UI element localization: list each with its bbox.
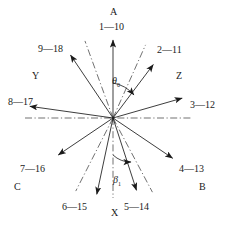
vector-v8 bbox=[30, 106, 113, 118]
angle-label-beta: β1 bbox=[113, 175, 121, 187]
radial-vector-diagram: A X Y Z C B θ0 β1 1—102—113—124—135—146—… bbox=[0, 0, 230, 229]
vector-label-v3: 3—12 bbox=[190, 100, 215, 110]
beta-subscript: 1 bbox=[118, 181, 121, 187]
vector-v3 bbox=[113, 98, 182, 118]
beta-arc bbox=[113, 155, 131, 162]
vector-arrows-group bbox=[30, 40, 182, 194]
theta-subscript: 0 bbox=[117, 82, 120, 88]
quadrant-label-Z: Z bbox=[176, 71, 182, 81]
vector-label-v7: 7—16 bbox=[20, 164, 45, 174]
vector-v7 bbox=[58, 118, 113, 155]
angle-label-theta: θ0 bbox=[112, 76, 120, 88]
vector-v6 bbox=[97, 118, 113, 194]
vector-label-v6: 6—15 bbox=[62, 202, 87, 212]
axis-label-A: A bbox=[110, 7, 117, 17]
vector-label-v5: 5—14 bbox=[124, 202, 149, 212]
vector-label-v9: 9—18 bbox=[38, 44, 63, 54]
axis-label-X: X bbox=[111, 208, 118, 218]
quadrant-label-B: B bbox=[199, 182, 206, 192]
quadrant-label-C: C bbox=[14, 182, 21, 192]
vector-v4 bbox=[113, 118, 173, 158]
vector-label-v8: 8—17 bbox=[8, 97, 33, 107]
quadrant-label-Y: Y bbox=[32, 71, 39, 81]
r-lower-left bbox=[76, 118, 113, 191]
diagram-canvas bbox=[0, 0, 230, 229]
vector-v9 bbox=[71, 55, 113, 118]
vector-label-v1: 1—10 bbox=[99, 22, 124, 32]
r-upper-left bbox=[85, 41, 113, 118]
vector-label-v4: 4—13 bbox=[179, 164, 204, 174]
vector-label-v2: 2—11 bbox=[157, 45, 182, 55]
reference-axes-group bbox=[25, 41, 191, 198]
